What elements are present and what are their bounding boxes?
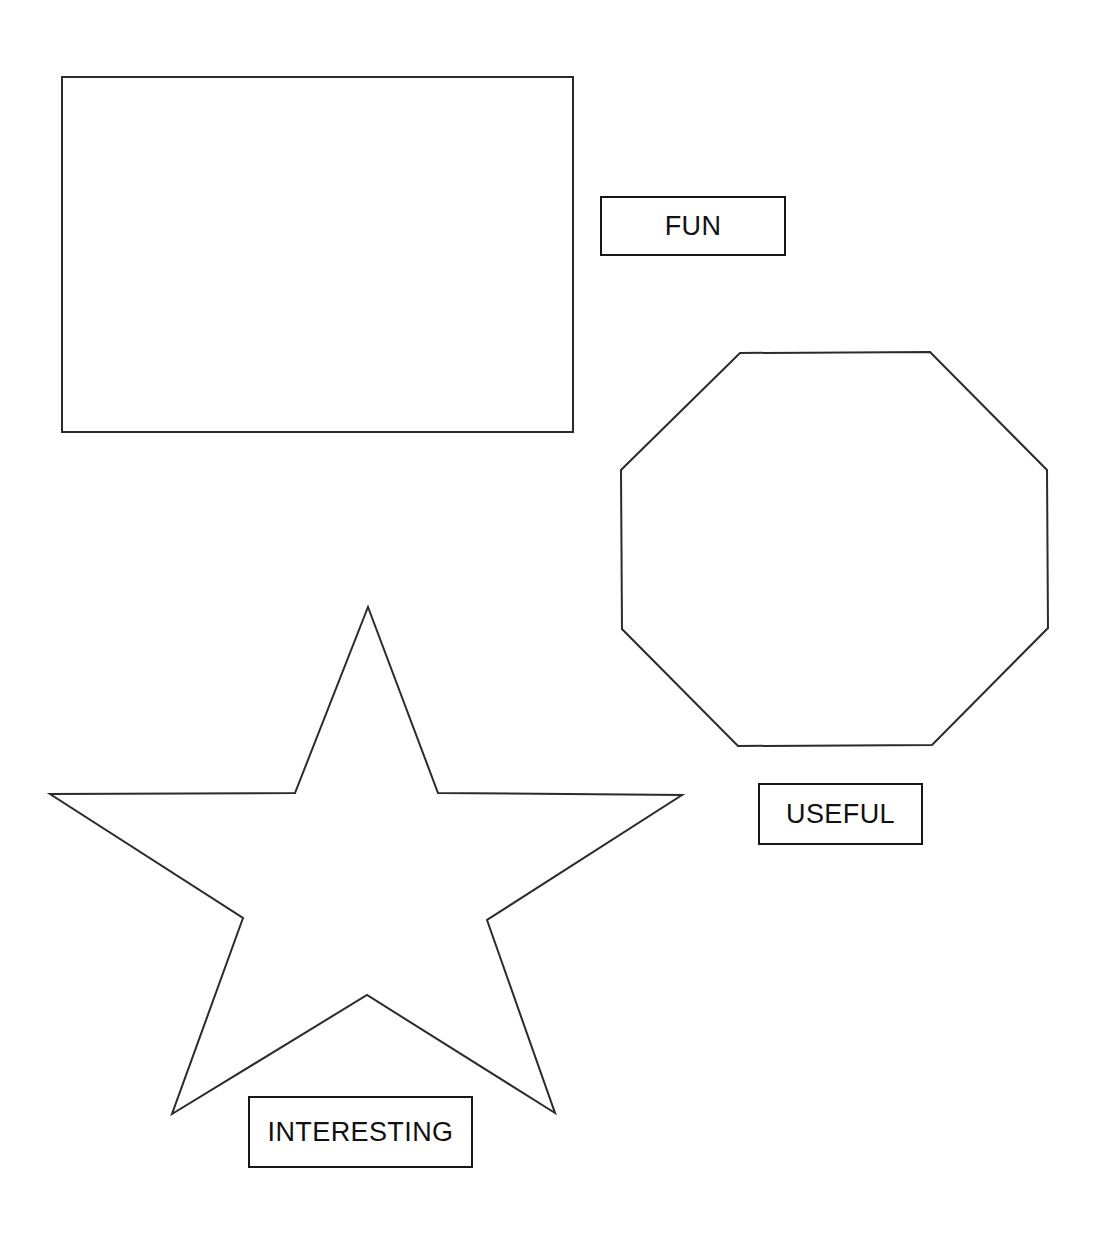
worksheet-canvas: FUN USEFUL INTERESTING <box>0 0 1101 1237</box>
shape-layer <box>0 0 1101 1237</box>
label-interesting-text: INTERESTING <box>268 1119 454 1146</box>
label-box-interesting[interactable]: INTERESTING <box>248 1096 473 1168</box>
rectangle-shape[interactable] <box>62 77 573 432</box>
label-box-fun[interactable]: FUN <box>600 196 786 256</box>
five-point-star-shape[interactable] <box>50 607 682 1114</box>
label-fun-text: FUN <box>665 213 722 240</box>
label-box-useful[interactable]: USEFUL <box>758 783 923 845</box>
label-useful-text: USEFUL <box>786 801 895 828</box>
octagon-shape[interactable] <box>621 352 1048 746</box>
